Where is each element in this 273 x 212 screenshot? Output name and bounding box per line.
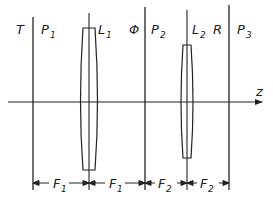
label-l2: L 2: [192, 22, 206, 40]
svg-text:P: P: [237, 22, 245, 37]
label-p3: P 3: [237, 22, 252, 40]
svg-text:2: 2: [208, 184, 214, 194]
svg-text:F: F: [200, 176, 208, 191]
label-p2: P 2: [151, 22, 166, 40]
svg-text:P: P: [151, 22, 159, 37]
svg-text:1: 1: [61, 184, 67, 194]
svg-text:2: 2: [200, 30, 206, 40]
svg-text:F: F: [109, 176, 117, 191]
dim-label-f2-b: F 2: [200, 176, 214, 194]
lens-l2: [181, 10, 193, 190]
svg-text:2: 2: [166, 184, 172, 194]
svg-text:1: 1: [50, 30, 56, 40]
svg-text:2: 2: [160, 30, 166, 40]
label-z-axis: z: [255, 84, 264, 99]
svg-text:F: F: [53, 176, 61, 191]
label-t: T: [16, 22, 25, 37]
svg-text:1: 1: [106, 30, 112, 40]
label-phi: Φ: [129, 22, 139, 37]
dim-label-f1-a: F 1: [53, 176, 67, 194]
svg-text:F: F: [158, 176, 166, 191]
label-r: R: [213, 22, 222, 37]
optical-system-diagram: T P 1 L 1 Φ P 2 L 2 R P 3 z: [0, 0, 273, 212]
svg-text:P: P: [41, 22, 49, 37]
label-p1: P 1: [41, 22, 56, 40]
dim-label-f2-a: F 2: [158, 176, 172, 194]
dim-label-f1-b: F 1: [109, 176, 123, 194]
label-l1: L 1: [98, 22, 112, 40]
svg-text:L: L: [98, 22, 105, 37]
svg-text:3: 3: [246, 30, 252, 40]
svg-text:L: L: [192, 22, 199, 37]
svg-text:1: 1: [117, 184, 123, 194]
